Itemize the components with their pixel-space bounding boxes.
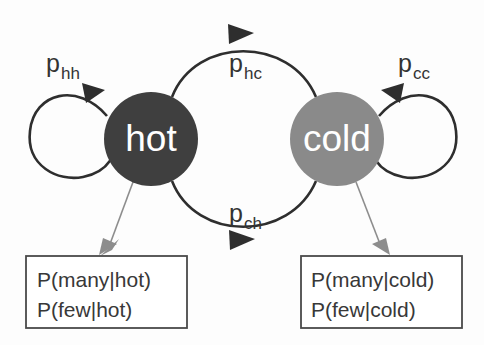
state-node-cold-label: cold: [303, 118, 371, 159]
transition-label-cc-base: p: [398, 49, 412, 77]
transition-label-ch: p ch: [229, 199, 262, 233]
emission-box-hot-line-2: P(few|hot): [37, 298, 132, 321]
state-node-hot[interactable]: hot: [104, 92, 198, 186]
emission-box-hot-line-1: P(many|hot): [37, 268, 151, 291]
emission-arrow-hot-line: [110, 182, 133, 244]
transition-label-hh: p hh: [46, 49, 80, 83]
state-node-hot-label: hot: [125, 118, 177, 159]
diagram-svg: hot cold p hh p hc p ch p cc P: [0, 0, 484, 345]
transition-label-hh-base: p: [46, 49, 60, 77]
transition-label-hh-subscript: hh: [61, 64, 80, 83]
transition-hot-to-cold: [172, 24, 316, 97]
transition-hot-to-cold-arrowhead: [228, 24, 254, 44]
emission-box-cold-line-2: P(few|cold): [311, 298, 416, 321]
transition-label-cc: p cc: [398, 49, 431, 83]
self-loop-hot: [30, 83, 115, 178]
emission-box-hot: P(many|hot) P(few|hot): [26, 256, 187, 328]
self-loop-cold: [371, 83, 456, 178]
emission-arrow-hot-arrowhead-fill: [99, 238, 117, 255]
transition-label-ch-base: p: [229, 199, 243, 227]
emission-arrow-cold-arrowhead: [372, 238, 390, 255]
emission-arrow-cold-line: [356, 182, 380, 244]
transition-label-hc-subscript: hc: [244, 64, 262, 83]
emission-box-cold: P(many|cold) P(few|cold): [301, 256, 462, 328]
self-loop-hot-path: [30, 95, 115, 178]
transition-cold-to-hot-arrowhead: [229, 230, 255, 250]
self-loop-hot-arrowhead: [82, 83, 105, 103]
self-loop-cold-arrowhead: [381, 83, 404, 103]
state-node-cold[interactable]: cold: [290, 92, 384, 186]
transition-label-cc-subscript: cc: [413, 64, 431, 83]
emission-arrow-hot: [99, 182, 133, 256]
emission-box-cold-line-1: P(many|cold): [311, 268, 434, 291]
transition-label-hc-base: p: [229, 49, 243, 77]
emission-arrow-cold: [356, 182, 390, 255]
state-diagram-canvas: hot cold p hh p hc p ch p cc P: [0, 0, 484, 345]
transition-label-hc: p hc: [229, 49, 262, 83]
transition-label-ch-subscript: ch: [244, 214, 262, 233]
